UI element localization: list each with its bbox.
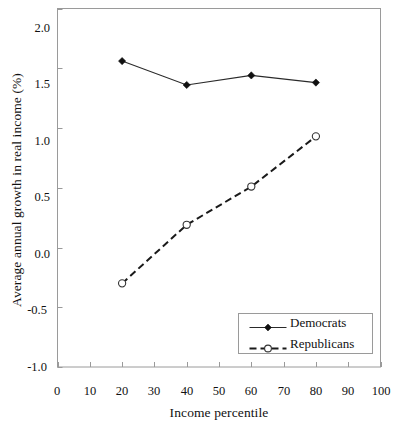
data-point-republicans-80 xyxy=(312,133,319,140)
legend-marker-republicans xyxy=(265,345,272,352)
chart-figure: Average annual growth in real income (%)… xyxy=(0,0,395,430)
data-point-democrats-40 xyxy=(183,81,190,88)
data-point-republicans-40 xyxy=(183,221,190,228)
data-series-layer xyxy=(119,57,320,286)
data-point-republicans-60 xyxy=(248,183,255,190)
data-point-democrats-60 xyxy=(248,72,255,79)
series-line-republicans xyxy=(122,136,316,283)
data-point-democrats-80 xyxy=(312,79,319,86)
legend-label-republicans: Republicans xyxy=(290,336,354,352)
legend-label-democrats: Democrats xyxy=(290,315,346,331)
data-point-republicans-20 xyxy=(119,280,126,287)
plot-area xyxy=(0,0,395,430)
data-point-democrats-20 xyxy=(119,57,126,64)
series-line-democrats xyxy=(122,61,316,85)
